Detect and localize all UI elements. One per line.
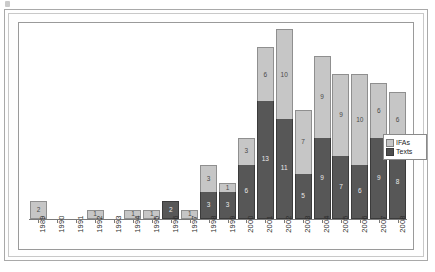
bar-segment-texts[interactable]: 11: [276, 119, 293, 219]
stacked-bar[interactable]: 36: [238, 138, 255, 219]
plot-area: 21112133133661310117599971066968: [29, 29, 407, 219]
x-axis-tick-label: 2004: [322, 215, 331, 233]
bar-slot: 1: [142, 29, 161, 219]
x-axis-tick-label: 1994: [133, 215, 142, 233]
x-label-slot: 1993: [105, 223, 124, 257]
legend-label-texts: Texts: [396, 148, 412, 155]
bar-slot: 1011: [275, 29, 294, 219]
bar-slot: 33: [199, 29, 218, 219]
x-axis-tick-label: 1997: [190, 215, 199, 233]
bar-segment-texts[interactable]: 7: [332, 156, 349, 219]
bar-value-label: 6: [396, 117, 400, 124]
chart-inner-frame: 21112133133661310117599971066968 1989199…: [8, 13, 424, 257]
legend-swatch-ifas: [386, 139, 394, 147]
stacked-bar[interactable]: 13: [219, 183, 236, 219]
bar-group: 21112133133661310117599971066968: [29, 29, 407, 219]
stacked-bar[interactable]: 613: [257, 47, 274, 219]
x-axis-tick-label: 1989: [38, 215, 47, 233]
bar-value-label: 3: [207, 176, 211, 183]
bar-value-label: 6: [377, 108, 381, 115]
x-axis-tick-label: 1995: [152, 215, 161, 233]
legend-item-texts[interactable]: Texts: [386, 147, 423, 156]
bar-value-label: 9: [339, 112, 343, 119]
bar-segment-ifas[interactable]: 9: [332, 74, 349, 155]
x-label-slot: 2003: [294, 223, 313, 257]
x-axis-tick-label: 2008: [398, 215, 407, 233]
bar-slot: 2: [29, 29, 48, 219]
bar-slot: 36: [237, 29, 256, 219]
bar-value-label: 6: [245, 188, 249, 195]
bar-value-label: 5: [301, 193, 305, 200]
x-axis-tick-label: 1996: [171, 215, 180, 233]
bar-value-label: 1: [226, 185, 230, 192]
scan-artifact-speck: [5, 1, 10, 7]
x-label-slot: 2005: [332, 223, 351, 257]
x-axis-tick-label: 2006: [360, 215, 369, 233]
bar-slot: 106: [350, 29, 369, 219]
x-axis-tick-label: 1998: [209, 215, 218, 233]
x-label-slot: 1995: [142, 223, 161, 257]
bar-segment-texts[interactable]: 6: [351, 165, 368, 219]
bar-value-label: 6: [264, 72, 268, 79]
x-axis-tick-label: 2000: [246, 215, 255, 233]
plot-area-frame: 21112133133661310117599971066968 1989199…: [18, 22, 414, 250]
x-label-slot: 2004: [313, 223, 332, 257]
bar-slot: 97: [332, 29, 351, 219]
x-label-slot: 1994: [124, 223, 143, 257]
bar-segment-texts[interactable]: 6: [238, 165, 255, 219]
x-label-slot: 1999: [218, 223, 237, 257]
x-label-slot: 2000: [237, 223, 256, 257]
bar-segment-ifas[interactable]: 3: [238, 138, 255, 165]
stacked-bar[interactable]: 1011: [276, 29, 293, 219]
bar-segment-ifas[interactable]: 7: [295, 110, 312, 173]
bar-segment-texts[interactable]: 5: [295, 174, 312, 219]
bar-slot: 68: [388, 29, 407, 219]
chart-legend: IFAs Texts: [383, 134, 427, 160]
x-axis-tick-label: 1999: [228, 215, 237, 233]
bar-slot: [105, 29, 124, 219]
bar-value-label: 3: [226, 202, 230, 209]
bar-segment-texts[interactable]: 13: [257, 101, 274, 219]
bar-segment-ifas[interactable]: 10: [276, 29, 293, 119]
bar-value-label: 2: [37, 207, 41, 214]
bar-slot: [67, 29, 86, 219]
stacked-bar[interactable]: 97: [332, 74, 349, 219]
stacked-bar[interactable]: 75: [295, 110, 312, 219]
bar-value-label: 7: [339, 184, 343, 191]
x-axis-tick-label: 2003: [303, 215, 312, 233]
x-label-slot: 2002: [275, 223, 294, 257]
chart-outer-frame: 21112133133661310117599971066968 1989199…: [4, 9, 428, 261]
legend-swatch-texts: [386, 148, 394, 156]
bar-slot: 1: [180, 29, 199, 219]
bar-segment-texts[interactable]: 9: [314, 138, 331, 219]
bar-slot: 1: [86, 29, 105, 219]
stacked-bar[interactable]: 33: [200, 165, 217, 219]
bar-value-label: 3: [207, 202, 211, 209]
stacked-bar[interactable]: 99: [314, 56, 331, 219]
bar-slot: [48, 29, 67, 219]
bar-slot: 69: [369, 29, 388, 219]
x-axis-tick-label: 1992: [95, 215, 104, 233]
bar-segment-ifas[interactable]: 6: [370, 83, 387, 137]
bar-segment-ifas[interactable]: 9: [314, 56, 331, 137]
x-label-slot: 1990: [48, 223, 67, 257]
bar-value-label: 8: [396, 179, 400, 186]
bar-segment-ifas[interactable]: 6: [257, 47, 274, 101]
legend-label-ifas: IFAs: [396, 139, 410, 146]
bar-slot: 2: [161, 29, 180, 219]
stacked-bar[interactable]: 106: [351, 74, 368, 219]
x-label-slot: 1996: [161, 223, 180, 257]
bar-value-label: 9: [320, 94, 324, 101]
bar-segment-ifas[interactable]: 10: [351, 74, 368, 164]
legend-item-ifas[interactable]: IFAs: [386, 138, 423, 147]
x-label-slot: 1989: [29, 223, 48, 257]
x-label-slot: 1997: [180, 223, 199, 257]
bar-segment-ifas[interactable]: 3: [200, 165, 217, 192]
bar-segment-ifas[interactable]: 1: [219, 183, 236, 192]
bar-value-label: 9: [320, 175, 324, 182]
bar-slot: 75: [294, 29, 313, 219]
bar-value-label: 6: [358, 188, 362, 195]
x-label-slot: 2001: [256, 223, 275, 257]
x-axis-tick-label: 2002: [284, 215, 293, 233]
bar-slot: 13: [218, 29, 237, 219]
